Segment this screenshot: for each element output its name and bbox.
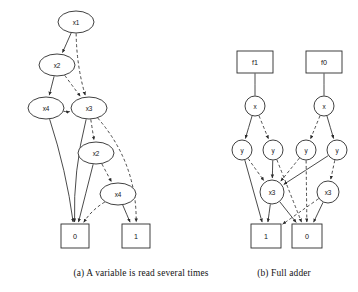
- node-circle: [296, 140, 316, 160]
- node-b-y4[interactable]: y: [327, 140, 347, 160]
- node-circle: [245, 96, 265, 116]
- diagram-canvas: x1x2x4x3x2x401f1f0xxyyyyx3x310 (a) A var…: [0, 0, 358, 292]
- edge-b-xl-to-b-y2: [259, 116, 269, 139]
- terminal-box: [251, 224, 281, 248]
- edge-a-x4b-to-a-t0: [84, 202, 105, 222]
- node-b-z1[interactable]: x3: [260, 180, 284, 204]
- node-b-xl[interactable]: x: [245, 96, 265, 116]
- node-ellipse: [100, 183, 136, 205]
- edge-a-x3-to-a-x2b: [91, 119, 94, 140]
- edge-a-x4l-to-a-t0: [50, 119, 74, 222]
- edge-b-xr-to-b-y4: [327, 116, 334, 139]
- edge-b-y1-to-b-z1: [248, 158, 264, 180]
- node-b-f0[interactable]: f0: [306, 51, 342, 73]
- node-circle: [314, 96, 334, 116]
- node-a-x2b[interactable]: x2: [78, 142, 114, 164]
- node-circle: [317, 181, 339, 203]
- node-circle: [232, 140, 252, 160]
- node-a-x3[interactable]: x3: [71, 97, 107, 119]
- node-b-y3[interactable]: y: [296, 140, 316, 160]
- figure-container: x1x2x4x3x2x401f1f0xxyyyyx3x310 (a) A var…: [0, 0, 358, 292]
- node-a-t1[interactable]: 1: [122, 224, 150, 248]
- edge-a-x4b-to-a-t1: [123, 205, 130, 222]
- edge-a-x3-to-a-t1: [98, 118, 136, 222]
- node-ellipse: [71, 97, 107, 119]
- node-circle: [260, 180, 284, 204]
- edge-a-x1-to-a-x2t: [63, 33, 72, 53]
- node-ellipse: [58, 11, 94, 33]
- node-ellipse: [78, 142, 114, 164]
- node-circle: [327, 140, 347, 160]
- terminal-box: [61, 224, 89, 248]
- node-a-x2t[interactable]: x2: [39, 54, 75, 76]
- node-circle: [263, 140, 283, 160]
- edge-b-z1-to-b-t1: [268, 204, 270, 222]
- node-b-f1[interactable]: f1: [237, 51, 273, 73]
- node-b-z2[interactable]: x3: [317, 181, 339, 203]
- edge-a-x1-to-a-x3: [76, 33, 85, 95]
- edge-a-x2t-to-a-x4l: [49, 76, 54, 95]
- edge-b-xl-to-b-y1: [245, 116, 252, 139]
- node-b-y1[interactable]: y: [232, 140, 252, 160]
- node-a-x4l[interactable]: x4: [28, 97, 64, 119]
- node-ellipse: [39, 54, 75, 76]
- node-b-t1[interactable]: 1: [251, 224, 281, 248]
- caption-b: (b) Full adder: [257, 268, 311, 279]
- edge-b-z1-to-b-t0: [280, 202, 296, 223]
- node-a-t0[interactable]: 0: [61, 224, 89, 248]
- captions-layer: (a) A variable is read several times(b) …: [73, 268, 311, 279]
- edges-layer: [49, 33, 335, 224]
- edge-a-x2t-to-a-x3: [65, 75, 81, 96]
- node-a-x1[interactable]: x1: [58, 11, 94, 33]
- terminal-box: [237, 51, 273, 73]
- caption-a: (a) A variable is read several times: [73, 268, 208, 279]
- edge-b-z2-to-b-t0: [314, 202, 324, 222]
- edge-b-xr-to-b-y3: [311, 116, 321, 139]
- node-a-x4b[interactable]: x4: [100, 183, 136, 205]
- terminal-box: [306, 51, 342, 73]
- terminal-box: [292, 224, 322, 248]
- node-b-xr[interactable]: x: [314, 96, 334, 116]
- edge-b-y1-to-b-t1: [245, 160, 262, 222]
- node-ellipse: [28, 97, 64, 119]
- terminal-box: [122, 224, 150, 248]
- edge-a-x2b-to-a-x4b: [102, 164, 112, 182]
- node-b-y2[interactable]: y: [263, 140, 283, 160]
- node-b-t0[interactable]: 0: [292, 224, 322, 248]
- edge-b-y4-to-b-z2: [331, 160, 335, 179]
- edge-a-x3-to-a-t0: [74, 119, 86, 222]
